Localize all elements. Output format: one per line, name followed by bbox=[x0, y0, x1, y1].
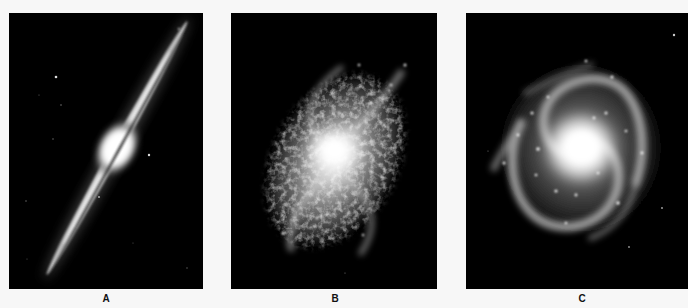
galaxy-image-c bbox=[466, 13, 688, 289]
galaxy-image-b bbox=[231, 13, 437, 289]
panel-label-a: A bbox=[96, 292, 116, 306]
panel-label-c: C bbox=[572, 292, 592, 306]
edge-on-galaxy-graphic bbox=[9, 13, 203, 289]
galaxy-image-a bbox=[9, 13, 203, 289]
flocculent-spiral-graphic bbox=[231, 13, 437, 289]
panel-label-b: B bbox=[325, 292, 345, 306]
grand-design-spiral-graphic bbox=[466, 13, 688, 289]
